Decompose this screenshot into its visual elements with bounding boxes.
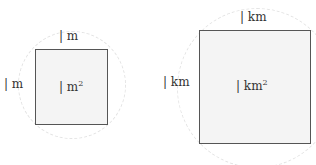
small-area-base: | m [59, 80, 78, 94]
large-area-label: | km2 [236, 79, 268, 92]
small-left-label: | m [4, 78, 23, 90]
small-area-label: | m2 [59, 80, 83, 93]
unit-area-diagram: | m | m | m2 | km | km | km2 [0, 0, 316, 165]
large-left-label: | km [163, 76, 190, 88]
large-area-base: | km [236, 79, 263, 93]
small-area-exp: 2 [78, 79, 83, 88]
large-area-exp: 2 [263, 78, 268, 87]
large-top-label: | km [240, 11, 267, 23]
small-top-label: | m [59, 30, 78, 42]
